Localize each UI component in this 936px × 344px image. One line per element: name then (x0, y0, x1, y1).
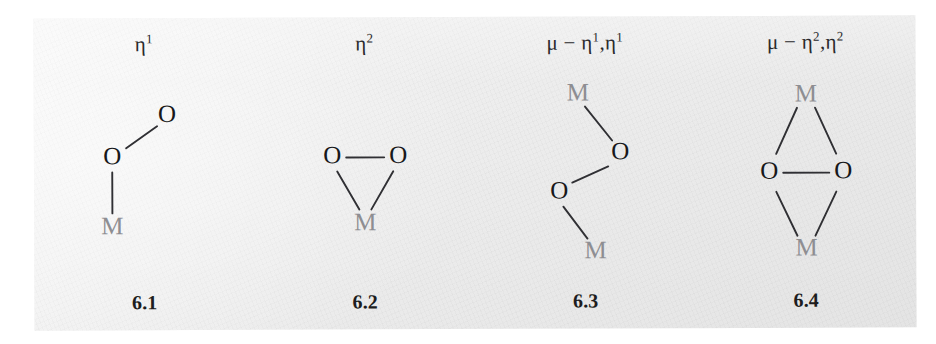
bond-metal-top-to-o-left-6-4 (776, 108, 797, 154)
figure-page: η1 O O M 6.1 η2 O (0, 0, 936, 344)
compound-label-6-3: 6.3 (475, 289, 696, 313)
structure-cell-6-4: μ − η2,η2 M O O M 6.4 (695, 15, 917, 328)
atom-metal-6-1: M (101, 212, 123, 239)
mode-label-6-1: η1 (33, 32, 254, 58)
bond-o-left-to-metal-bottom-6-4 (776, 192, 797, 236)
atom-oxygen-terminal-6-1: O (158, 100, 176, 127)
bond-metal-top-to-o-upper-6-3 (585, 106, 612, 140)
structure-cell-6-3: μ − η1,η1 M O O M 6.3 (474, 16, 696, 329)
diagram-6-4: M O O M (695, 77, 916, 268)
structures-row: η1 O O M 6.1 η2 O (33, 15, 916, 330)
atom-oxygen-left-6-4: O (760, 157, 778, 184)
eta-superscript-6-3-b: 1 (616, 29, 623, 44)
structure-cell-6-1: η1 O O M 6.1 (33, 18, 255, 331)
atom-oxygen-upper-6-3: O (611, 137, 629, 164)
bond-o-right-to-metal-bottom-6-4 (815, 192, 836, 236)
eta-symbol-6-2: η (355, 31, 366, 55)
atom-oxygen-left-6-2: O (323, 141, 341, 168)
atom-oxygen-right-6-4: O (834, 156, 852, 183)
bond-o-left-to-metal-6-2 (337, 171, 359, 209)
atom-metal-bottom-6-3: M (584, 236, 606, 263)
bond-o-right-to-metal-6-2 (371, 171, 393, 209)
mu-dash-6-4: μ − (767, 30, 802, 54)
atom-oxygen-lower-6-3: O (550, 176, 568, 203)
mode-label-6-3: μ − η1,η1 (474, 30, 695, 56)
diagram-6-2: O O M (254, 79, 475, 270)
atom-metal-6-2: M (354, 208, 376, 235)
eta-symbol-6-4-a: η (802, 30, 813, 54)
compound-label-6-1: 6.1 (34, 291, 255, 315)
bond-o-lower-to-metal-bottom-6-3 (563, 207, 587, 239)
eta-superscript-6-1: 1 (146, 31, 153, 46)
compound-label-6-2: 6.2 (255, 290, 476, 314)
mode-label-6-4: μ − η2,η2 (695, 29, 916, 55)
structure-cell-6-2: η2 O O M 6.2 (254, 17, 476, 330)
diagram-6-3: M O O M (475, 78, 696, 269)
atom-metal-bottom-6-4: M (795, 233, 817, 260)
atom-metal-top-6-4: M (794, 79, 816, 106)
eta-symbol-6-4-b: η (825, 30, 836, 54)
bond-o-o-6-3 (572, 166, 608, 182)
atom-oxygen-bound-6-1: O (103, 142, 121, 169)
atom-metal-top-6-3: M (567, 78, 589, 105)
mu-dash-6-3: μ − (546, 31, 581, 55)
diagram-6-1: O O M (34, 80, 255, 271)
compound-label-6-4: 6.4 (696, 288, 917, 312)
eta-symbol-6-1: η (135, 32, 146, 56)
eta-symbol-6-3-a: η (581, 31, 592, 55)
bond-metal-top-to-o-right-6-4 (815, 108, 836, 154)
mode-label-6-2: η2 (254, 31, 475, 57)
bond-o-terminal-to-o-bound-6-1 (126, 126, 157, 148)
eta-superscript-6-2: 2 (366, 30, 373, 45)
eta-superscript-6-4-b: 2 (837, 29, 844, 44)
eta-symbol-6-3-b: η (605, 30, 616, 54)
atom-oxygen-right-6-2: O (389, 141, 407, 168)
